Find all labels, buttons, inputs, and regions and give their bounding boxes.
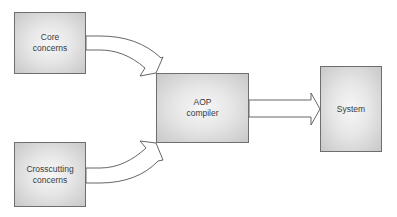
edge-crosscutting-to-aop xyxy=(86,141,163,183)
node-aop-compiler: AOP compiler xyxy=(156,73,249,143)
edge-aop-to-system xyxy=(249,93,320,125)
node-system-label: System xyxy=(337,104,365,115)
node-core-concerns-label: Core concerns xyxy=(33,32,68,54)
node-aop-compiler-label: AOP compiler xyxy=(186,97,218,119)
node-system: System xyxy=(320,66,382,152)
node-crosscutting-concerns-label: Crosscutting concerns xyxy=(26,164,73,186)
node-core-concerns: Core concerns xyxy=(14,12,86,74)
node-crosscutting-concerns: Crosscutting concerns xyxy=(14,142,86,207)
edge-core-to-aop xyxy=(86,36,163,76)
